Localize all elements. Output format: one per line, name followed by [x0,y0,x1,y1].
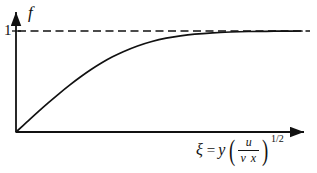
fraction-numerator: u [244,136,254,149]
exponent-one-half: 1/2 [271,134,284,144]
velocity-profile-curve [16,31,302,132]
xi-symbol: ξ [196,142,206,158]
fraction-u-over-nu-x: u ν x [237,136,260,164]
paren-close-glyph: ) [262,138,268,163]
paren-open-glyph: ( [229,138,235,163]
boundary-layer-figure: f 1 ξ = y ( u ν x ) 1/2 [0,0,317,173]
equals-sign: = [206,143,218,158]
y-axis-label: f [28,4,33,21]
variable-y: y [218,142,227,158]
y-tick-label-one: 1 [4,23,12,38]
x-axis-label: ξ = y ( u ν x ) 1/2 [196,136,284,164]
fraction-denominator: ν x [238,152,259,165]
